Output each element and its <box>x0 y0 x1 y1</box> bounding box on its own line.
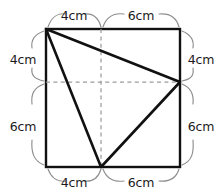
brace-arc-left-lower-end <box>32 140 44 165</box>
brace-arc-right-upper-start <box>182 31 193 48</box>
brace-arc-left-upper-start <box>32 31 44 48</box>
dimension-label-top-left: 4cm <box>61 8 87 23</box>
geometry-figure: 4cm 6cm 4cm 6cm 4cm 6cm 4cm 6cm <box>0 0 221 195</box>
brace-arc-right-lower-start <box>182 84 193 104</box>
brace-arc-left-lower-start <box>32 84 44 104</box>
brace-arc-right-lower-end <box>182 140 193 165</box>
square-outline <box>46 29 180 167</box>
dimension-label-left-upper: 4cm <box>10 52 36 67</box>
brace-arc-bottom-right-start <box>103 169 124 181</box>
brace-arc-bottom-right-end <box>159 169 179 181</box>
dimension-label-right-upper: 4cm <box>188 52 214 67</box>
dimension-label-right-lower: 6cm <box>188 119 214 134</box>
dimension-label-top-right: 6cm <box>128 8 154 23</box>
brace-arc-right-upper-end <box>182 68 193 81</box>
brace-arc-top-right-start <box>103 14 124 27</box>
brace-arc-left-upper-end <box>32 68 44 81</box>
dimension-label-bottom-right: 6cm <box>128 175 154 190</box>
geometry-canvas: 4cm 6cm 4cm 6cm 4cm 6cm 4cm 6cm <box>0 0 221 195</box>
brace-arc-top-right-end <box>159 14 179 27</box>
dimension-label-left-lower: 6cm <box>10 119 36 134</box>
dimension-label-bottom-left: 4cm <box>61 175 87 190</box>
